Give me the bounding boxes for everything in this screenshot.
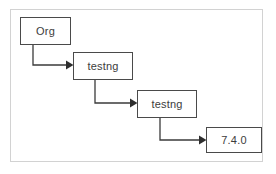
node-version-label: 7.4.0	[221, 135, 246, 146]
node-org[interactable]: Org	[20, 17, 71, 45]
node-org-label: Org	[36, 26, 55, 37]
diagram-canvas: Org testng testng 7.4.0	[0, 0, 276, 174]
node-version[interactable]: 7.4.0	[206, 127, 262, 153]
node-testng-2-label: testng	[151, 99, 182, 110]
node-testng-1-label: testng	[87, 61, 118, 72]
node-testng-2[interactable]: testng	[137, 90, 197, 118]
node-testng-1[interactable]: testng	[73, 52, 133, 80]
